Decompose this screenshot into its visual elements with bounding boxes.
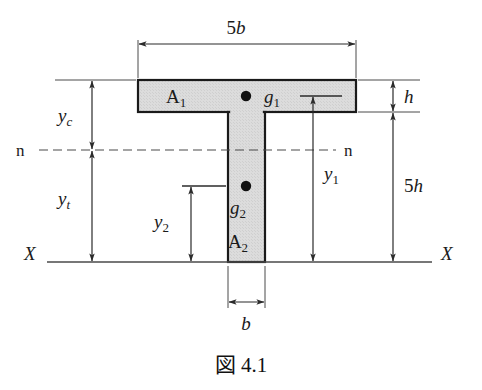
neutral-axis-label-left: n [16, 141, 25, 160]
centroid-dot-g2 [241, 181, 251, 191]
dimension-label-5h: 5h [404, 175, 423, 196]
dimension-label-yc: yc [56, 105, 72, 129]
dimension-yc: yc [55, 80, 136, 149]
dimension-y2: y2 [152, 186, 226, 261]
figure-caption: 図 4.1 [215, 353, 268, 377]
t-section-diagram: X X n n 5b b h [0, 0, 482, 390]
dimension-web-width-b: b [228, 266, 265, 334]
dimension-yt: yt [56, 151, 92, 261]
neutral-axis-label-right: n [344, 141, 353, 160]
dimension-label-5b: 5b [227, 17, 246, 38]
dimension-label-yt: yt [56, 188, 70, 212]
dimension-y1: y1 [300, 96, 342, 261]
dimension-flange-thickness-h: h [358, 80, 420, 112]
dimension-label-h: h [404, 86, 414, 107]
dimension-label-y1: y1 [322, 163, 339, 187]
figure-container: X X n n 5b b h [0, 0, 482, 390]
dimension-total-depth-5h: 5h [393, 113, 423, 261]
x-axis-label-left: X [23, 243, 37, 264]
centroid-dot-g1 [241, 91, 251, 101]
dimension-top-width-5b: 5b [138, 17, 356, 78]
neutral-axis-n: n n [16, 141, 353, 160]
x-axis-label-right: X [440, 243, 454, 264]
flange-web-junction [230, 109, 263, 115]
dimension-label-y2: y2 [152, 211, 169, 235]
dimension-label-b: b [241, 313, 251, 334]
